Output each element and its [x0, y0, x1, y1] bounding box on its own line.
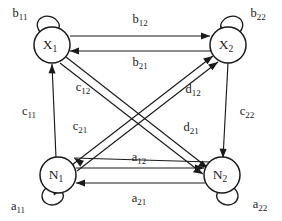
edge-line-c22: [223, 63, 228, 158]
edge-label-a21: a21: [132, 191, 147, 207]
arrowhead-b21: [70, 47, 79, 54]
arrowhead-c11: [49, 64, 56, 74]
edge-group-c11: [49, 64, 57, 158]
edge-group-b12-b21: [70, 32, 212, 54]
edge-label-d21: d21: [183, 120, 198, 136]
edge-label-b12: b12: [132, 12, 147, 28]
edge-label-c22: c22: [240, 104, 255, 120]
edge-label-c21: c21: [73, 119, 88, 135]
diagram-canvas: X1 X2 N1 N2 b12 b21 a12 a21 c11 c22 c12 …: [0, 0, 282, 221]
node-n1[interactable]: N1: [40, 157, 76, 193]
edge-line-d12: [72, 56, 213, 165]
edge-label-b21: b21: [132, 55, 147, 71]
loop-label-a11: a11: [11, 199, 25, 215]
edge-group-a12-a21: [76, 164, 205, 186]
arrowhead-b12: [201, 32, 210, 39]
loop-label-b11: b11: [13, 6, 28, 22]
edge-line-c11: [52, 64, 56, 158]
edge-label-a12: a12: [132, 150, 147, 166]
loop-label-b22: b22: [250, 6, 265, 22]
node-x1[interactable]: X1: [34, 27, 70, 63]
edge-label-c12: c12: [76, 80, 91, 96]
node-n2[interactable]: N2: [204, 157, 240, 193]
edge-label-c11: c11: [22, 104, 36, 120]
arrowhead-a21: [76, 179, 85, 186]
loop-label-a22: a22: [253, 197, 268, 213]
edge-group-d12-d21: [72, 56, 218, 171]
edge-label-d12: d12: [185, 82, 200, 98]
edge-group-c22: [220, 63, 229, 158]
node-x2[interactable]: X2: [210, 27, 246, 63]
graph-svg: X1 X2 N1 N2 b12 b21 a12 a21 c11 c22 c12 …: [0, 0, 282, 221]
edge-line-d21: [77, 62, 218, 171]
